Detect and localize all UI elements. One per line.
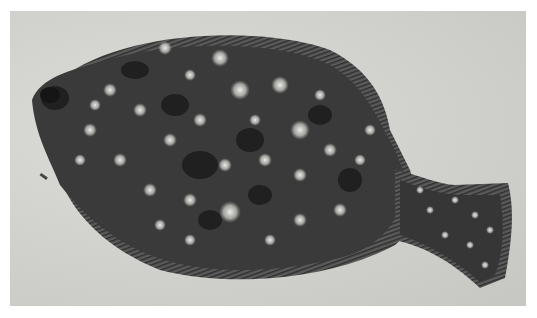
eye — [40, 87, 60, 103]
body — [32, 46, 405, 270]
photograph — [10, 11, 526, 306]
flounder-illustration — [10, 11, 526, 306]
